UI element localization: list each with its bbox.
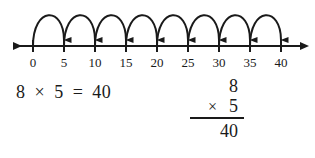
vertical-bottom-factor: 5 [229,96,238,116]
tick-label-20: 20 [151,55,164,70]
jump-arc-35-to-40 [250,15,281,46]
number-line-figure: 0 5 10 15 20 25 30 35 40 [0,0,315,72]
horizontal-equation: 8 × 5 = 40 [14,82,113,103]
vertical-bottom-factor-row: × 5 [184,96,244,116]
equations-area: 8 × 5 = 40 8 × 5 40 [0,76,315,158]
jump-arc-15-to-20 [126,15,157,46]
tick-label-35: 35 [244,55,257,70]
tick-label-40: 40 [275,55,288,70]
multiplication-sign-icon: × [35,82,46,102]
vertical-multiplication-sign-icon: × [208,97,217,117]
tick-label-15: 15 [120,55,133,70]
tick-labels-group: 0 5 10 15 20 25 30 35 40 [30,55,288,70]
vertical-multiplication: 8 × 5 40 [184,76,244,143]
jump-arc-5-to-10 [64,15,95,46]
tick-label-30: 30 [213,55,226,70]
tick-label-0: 0 [30,55,37,70]
tick-label-25: 25 [182,55,195,70]
equals-sign-icon: = [73,82,84,102]
jump-arc-0-to-5 [33,15,64,46]
equation-factor2: 5 [54,82,64,102]
vertical-product: 40 [220,121,238,143]
equation-product: 40 [92,82,111,102]
tick-label-5: 5 [61,55,68,70]
vertical-top-factor-row: 8 [184,76,244,96]
jump-arc-25-to-30 [188,15,219,46]
vertical-top-factor: 8 [229,76,238,96]
jump-arc-30-to-35 [219,15,250,46]
vertical-product-row: 40 [184,121,244,143]
jump-arc-10-to-15 [95,15,126,46]
vertical-sum-rule [190,117,244,119]
jump-arc-20-to-25 [157,15,188,46]
equation-factor1: 8 [16,82,26,102]
tick-label-10: 10 [89,55,102,70]
number-line-svg: 0 5 10 15 20 25 30 35 40 [0,0,315,72]
